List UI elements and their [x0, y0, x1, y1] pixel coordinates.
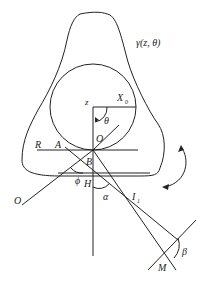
- beta-arc: [174, 238, 179, 258]
- line-m-cross: [148, 220, 196, 270]
- gamma-label: γ(z, θ): [136, 37, 161, 49]
- diagram-canvas: γ(z, θ) z X 0 θ O R A B ϕ H α I 1 O M β: [0, 0, 208, 282]
- line-a-m: [65, 147, 178, 240]
- b-label: B: [86, 156, 92, 167]
- phi-label: ϕ: [75, 175, 80, 186]
- m-label: M: [157, 262, 167, 273]
- o-left-label: O: [14, 195, 21, 206]
- line-o: [22, 150, 93, 205]
- i1-label: I: [131, 191, 136, 202]
- theta-label: θ: [104, 115, 109, 126]
- z-label: z: [84, 97, 89, 107]
- phi-arc: [71, 168, 83, 173]
- rotation-arrowhead-bottom: [162, 184, 169, 190]
- x0-subscript: 0: [125, 99, 128, 105]
- a-label: A: [54, 139, 62, 150]
- rotation-arrow: [165, 147, 186, 187]
- x0-label: X: [116, 92, 124, 103]
- alpha-arc: [93, 184, 109, 189]
- i1-subscript: 1: [137, 198, 140, 204]
- r-label: R: [34, 139, 41, 150]
- h-label: H: [83, 178, 92, 189]
- alpha-label: α: [103, 191, 109, 202]
- beta-label: β: [181, 246, 187, 257]
- o-center-label: O: [96, 133, 103, 144]
- line-o-m: [93, 150, 176, 270]
